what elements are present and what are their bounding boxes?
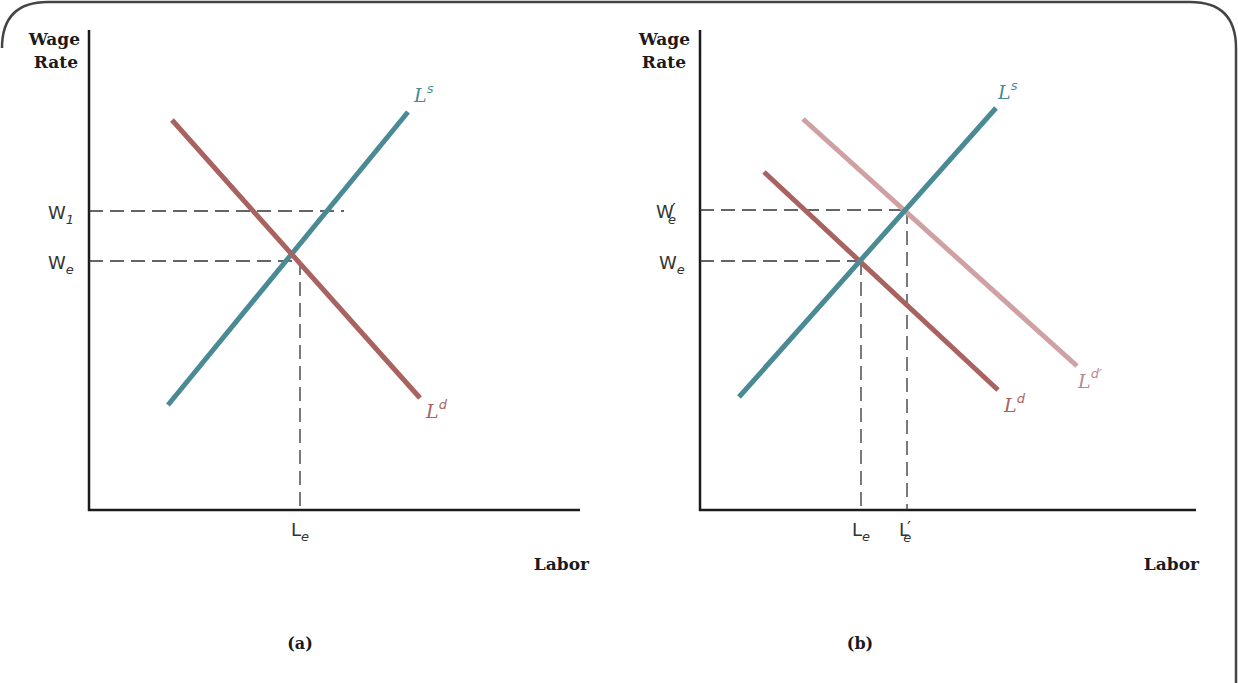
demand-label: Ld — [1003, 391, 1026, 416]
panel-label-a: (a) — [287, 634, 313, 653]
x-tick-le: Le — [291, 519, 309, 544]
y-tick-we: We — [48, 252, 74, 277]
figure-svg: Wage Rate Labor W1 We Le Ls Ld (a) — [0, 0, 1238, 683]
supply-label: Ls — [413, 81, 434, 106]
demand-label: Ld — [425, 397, 448, 422]
panel-a: Wage Rate Labor W1 We Le Ls Ld (a) — [28, 29, 590, 653]
demand-shifted-curve — [803, 119, 1077, 366]
y-tick-we: We — [659, 252, 685, 277]
y-tick-w1: W1 — [48, 202, 74, 227]
y-axis-label-line2: Rate — [34, 52, 78, 72]
x-axis-label: Labor — [1144, 554, 1200, 574]
demand-shifted-label: Ld′ — [1077, 366, 1102, 392]
figure-frame: Wage Rate Labor W1 We Le Ls Ld (a) — [0, 0, 1238, 683]
panel-label-b: (b) — [847, 634, 873, 653]
demand-curve — [764, 172, 998, 390]
x-tick-le-prime: L′e — [899, 517, 911, 545]
y-tick-we-prime: W′e — [656, 199, 676, 227]
supply-label: Ls — [997, 78, 1018, 103]
y-axis-label-line1: Wage — [638, 29, 691, 49]
x-axis-label: Labor — [534, 554, 590, 574]
y-axis-label-line2: Rate — [642, 52, 686, 72]
x-tick-le: Le — [852, 519, 870, 544]
y-axis-label-line1: Wage — [28, 29, 81, 49]
panel-b: Wage Rate Labor W′e We Le L′e Ls Ld — [638, 29, 1200, 653]
